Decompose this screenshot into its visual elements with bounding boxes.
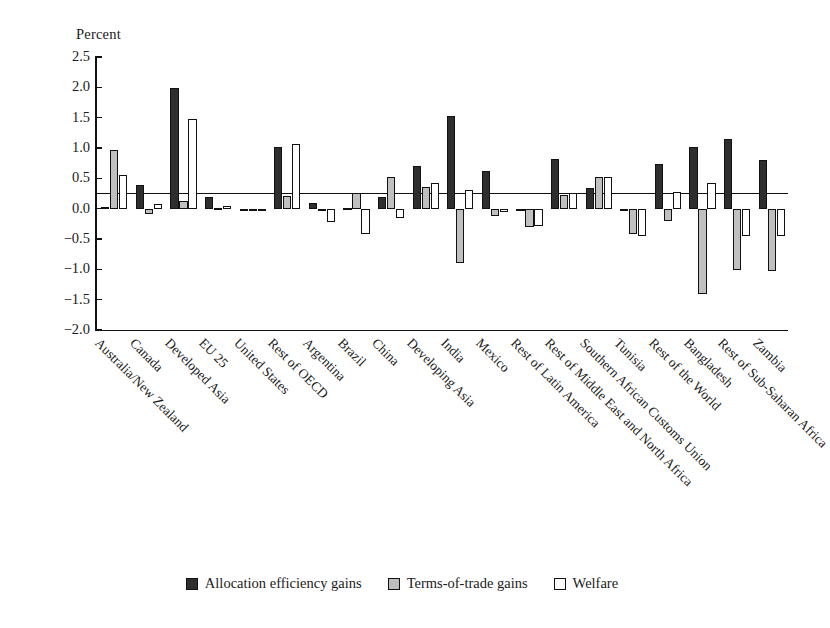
legend-label: Allocation efficiency gains (205, 575, 362, 592)
legend-label: Terms-of-trade gains (407, 575, 528, 592)
legend-item[interactable]: Terms-of-trade gains (388, 575, 528, 592)
x-axis-label: India (438, 336, 468, 366)
x-axis-label: Mexico (473, 336, 512, 375)
legend-swatch-icon (186, 578, 198, 590)
chart-legend: Allocation efficiency gainsTerms-of-trad… (0, 575, 804, 592)
legend-swatch-icon (554, 578, 566, 590)
x-axis-label: China (369, 336, 402, 369)
legend-item[interactable]: Welfare (554, 575, 619, 592)
legend-swatch-icon (388, 578, 400, 590)
legend-label: Welfare (573, 575, 619, 592)
legend-item[interactable]: Allocation efficiency gains (186, 575, 362, 592)
